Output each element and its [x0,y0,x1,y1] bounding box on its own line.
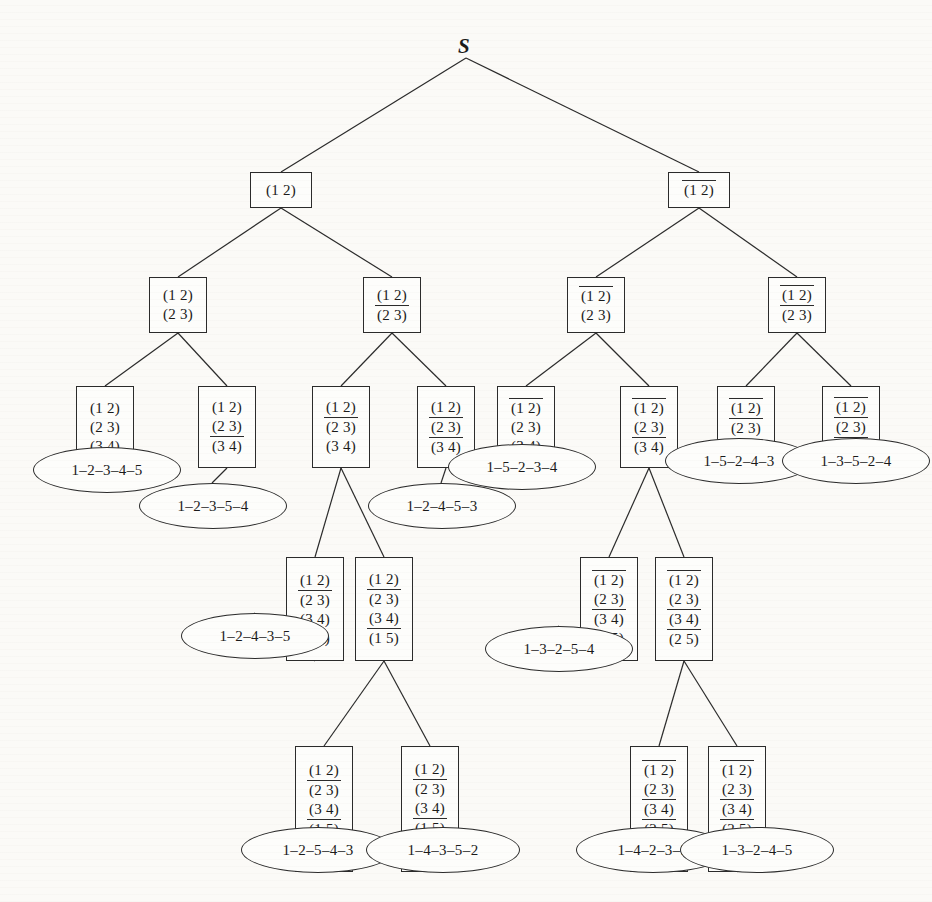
literal: (3 4) [413,799,447,818]
tree-node-box[interactable]: (1 2)(2 3) [768,277,826,333]
tree-edge [596,333,649,386]
tree-edge [384,661,430,746]
solution-leaf[interactable]: 1–5–2–3–4 [448,444,596,490]
literal: (1 2) [161,286,195,305]
literal: (1 2) [264,181,298,200]
literal: (2 3) [509,418,543,437]
literal-negated: (3 4) [429,437,463,457]
tree-node-box[interactable]: (1 2)(2 3) [149,277,207,333]
tree-node-box[interactable]: (1 2)(2 3)(3 4)(2 5) [655,557,713,661]
solution-leaf[interactable]: 1–2–3–5–4 [139,483,287,529]
tree-edge [466,58,699,172]
solution-leaf-label: 1–5–2–4–3 [703,453,774,470]
solution-leaf-label: 1–2–3–5–4 [177,498,248,515]
literal-negated: (1 2) [667,570,701,590]
literal: (3 4) [324,437,358,456]
literal-negated: (3 4) [632,437,666,457]
literal-negated: (3 4) [720,799,754,819]
solution-leaf[interactable]: 1–2–3–4–5 [33,447,181,493]
tree-node-box[interactable]: (1 2)(2 3) [363,277,421,333]
literal-negated: (1 2) [509,398,543,418]
literal: (2 3) [88,418,122,437]
literal: (2 3) [632,418,666,437]
solution-leaf-label: 1–3–5–2–4 [820,453,891,470]
literal-negated: (1 5) [367,628,401,648]
tree-edge [596,208,699,277]
search-tree-figure: S(1 2)(1 2)(1 2)(2 3)(1 2)(2 3)(1 2)(2 3… [0,0,932,902]
solution-leaf-label: 1–3–2–5–4 [523,641,594,658]
literal-negated: (2 3) [429,417,463,437]
tree-edge [392,333,446,386]
literal-negated: (1 2) [729,398,763,418]
literal-negated: (1 2) [642,760,676,780]
tree-node-box[interactable]: (1 2) [250,172,312,208]
solution-leaf-label: 1–5–2–3–4 [486,459,557,476]
literal: (1 2) [88,399,122,418]
literal-negated: (2 3) [729,418,763,438]
literal-negated: (2 3) [307,780,341,800]
literal: (1 2) [375,286,409,305]
literal-negated: (2 3) [375,305,409,325]
tree-edge [746,333,797,386]
solution-leaf[interactable]: 1–3–2–4–5 [680,827,834,873]
literal: (1 2) [307,761,341,780]
literal-negated: (1 2) [632,398,666,418]
tree-node-box[interactable]: (1 2)(2 3)(3 4)(1 5) [355,557,413,661]
tree-node-box[interactable]: (1 2)(2 3)(3 4) [198,386,256,468]
literal: (1 2) [413,760,447,779]
tree-edge [315,468,341,557]
solution-leaf-label: 1–2–5–4–3 [282,842,353,859]
literal-negated: (2 3) [367,589,401,609]
literal: (2 3) [720,780,754,799]
literal: (1 2) [367,570,401,589]
literal-negated: (2 3) [324,417,358,437]
tree-edge [684,661,737,746]
solution-leaf-label: 1–2–4–5–3 [406,498,477,515]
solution-leaf[interactable]: 1–4–3–5–2 [366,827,520,873]
literal-negated: (3 4) [667,609,701,629]
literal-negated: (1 2) [780,285,814,305]
tree-edge [105,333,178,386]
tree-edge [699,208,797,277]
literal: (1 2) [429,398,463,417]
literal-negated: (1 2) [592,570,626,590]
literal-negated: (3 4) [642,799,676,819]
literal-negated: (1 2) [579,286,613,306]
literal-negated: (1 2) [682,180,716,200]
tree-edge [178,333,227,386]
tree-edge [212,468,227,483]
literal: (2 3) [592,590,626,609]
solution-leaf[interactable]: 1–3–5–2–4 [782,438,930,484]
literal-negated: (2 3) [780,305,814,325]
literal: (1 2) [210,398,244,417]
literal: (3 4) [367,609,401,628]
tree-edge [324,661,384,746]
literal: (1 2) [298,571,332,590]
literal: (2 3) [210,417,244,436]
solution-leaf-label: 1–4–3–5–2 [407,842,478,859]
tree-edge [441,468,446,483]
solution-leaf[interactable]: 1–2–4–3–5 [181,613,329,659]
literal: (2 3) [667,590,701,609]
tree-edge [341,333,392,386]
tree-edge [797,333,851,386]
solution-leaf-label: 1–2–3–4–5 [71,462,142,479]
literal-negated: (3 4) [592,609,626,629]
tree-edge [649,468,684,557]
literal-negated: (3 4) [210,436,244,456]
solution-leaf[interactable]: 1–3–2–5–4 [485,626,633,672]
tree-edge [526,333,596,386]
literal: (2 3) [642,780,676,799]
tree-node-box[interactable]: (1 2)(2 3) [567,277,625,333]
literal-negated: (1 2) [720,760,754,780]
literal: (2 3) [161,305,195,324]
tree-edge [609,468,649,557]
literal: (3 4) [307,800,341,819]
literal-negated: (1 2) [834,397,868,417]
solution-leaf[interactable]: 1–2–4–5–3 [368,483,516,529]
tree-edge [659,661,684,746]
solution-leaf-label: 1–3–2–4–5 [721,842,792,859]
literal-negated: (2 3) [834,417,868,437]
tree-node-box[interactable]: (1 2)(2 3)(3 4) [312,386,370,468]
tree-node-box[interactable]: (1 2) [668,172,730,208]
